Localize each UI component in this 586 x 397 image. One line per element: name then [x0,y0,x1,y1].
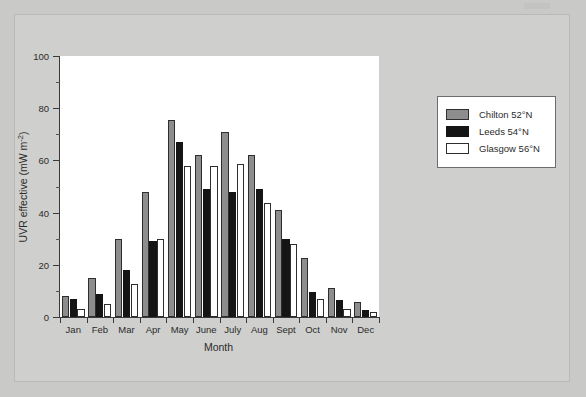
bar-may-glasgow [184,166,191,317]
x-axis-tick-label: Mar [118,325,134,335]
x-axis-tick [166,317,167,323]
bar-mar-chilton [115,239,122,317]
plot-area: 020406080100JanFebMarAprMayJuneJulyAugSe… [59,56,379,318]
bar-nov-chilton [328,288,335,317]
bar-july-chilton [221,132,228,317]
y-axis-tick: 40 [53,213,60,214]
x-axis-tick-label: Nov [331,325,348,335]
x-axis-tick [379,317,380,323]
bar-oct-glasgow [317,299,324,317]
legend-swatch-leeds [446,126,469,137]
y-axis-tick-label: 60 [38,157,49,167]
legend-label: Leeds 54°N [479,126,529,137]
legend-label: Chilton 52°N [479,109,532,120]
bar-nov-leeds [336,300,343,317]
legend-item: Glasgow 56°N [446,143,548,154]
bar-aug-leeds [256,189,263,317]
y-axis-tick: 100 [53,56,60,57]
x-axis-tick [140,317,141,323]
bar-sept-leeds [282,239,289,317]
x-axis-tick-label: Sept [276,325,296,335]
x-axis-tick [273,317,274,323]
y-axis-tick: 0 [53,317,60,318]
y-axis-tick-label: 40 [38,209,49,219]
x-axis-tick [220,317,221,323]
bar-sept-glasgow [290,244,297,317]
x-axis-tick-label: May [171,325,189,335]
bar-apr-glasgow [157,239,164,317]
bar-jan-leeds [70,299,77,317]
legend-item: Leeds 54°N [446,126,548,137]
x-axis-tick-label: Dec [357,325,374,335]
y-axis-tick-label: 0 [44,313,49,323]
bar-july-leeds [229,192,236,317]
y-axis-minor-tick [56,82,60,83]
x-axis-tick [246,317,247,323]
bar-may-leeds [176,142,183,317]
x-axis-tick [299,317,300,323]
x-axis-tick-label: Aug [251,325,268,335]
y-axis-minor-tick [56,187,60,188]
y-axis-minor-tick [56,239,60,240]
x-axis-tick [87,317,88,323]
x-axis-tick-label: June [196,325,217,335]
bar-june-chilton [195,155,202,317]
bar-jan-chilton [62,296,69,317]
y-axis-tick: 60 [53,160,60,161]
bar-dec-glasgow [370,312,377,317]
legend-item: Chilton 52°N [446,109,548,120]
x-axis-tick-label: Feb [92,325,108,335]
bar-dec-chilton [354,302,361,317]
figure-container: UVR effective (mW m-2) 020406080100JanFe… [0,0,586,397]
x-axis-tick [326,317,327,323]
y-axis-tick-label: 100 [33,52,49,62]
bar-nov-glasgow [343,309,350,317]
bar-feb-leeds [96,294,103,317]
bar-mar-leeds [123,270,130,317]
bar-apr-leeds [149,241,156,317]
x-axis-tick [352,317,353,323]
x-axis-tick [193,317,194,323]
legend-swatch-glasgow [446,143,469,154]
bar-mar-glasgow [131,284,138,317]
bar-oct-leeds [309,292,316,317]
legend-swatch-chilton [446,109,469,120]
bar-july-glasgow [237,164,244,317]
bar-dec-leeds [362,310,369,317]
x-axis-tick-label: July [224,325,241,335]
bar-apr-chilton [142,192,149,317]
y-axis-tick: 80 [53,108,60,109]
x-axis-tick [113,317,114,323]
y-axis-tick-label: 80 [38,104,49,114]
y-axis-minor-tick [56,134,60,135]
bar-feb-chilton [88,278,95,317]
y-axis-title-exponent: -2 [16,135,25,142]
x-axis-title: Month [59,341,378,353]
scan-artifact [524,3,550,9]
x-axis-tick-label: Oct [305,325,320,335]
bar-jan-glasgow [77,309,84,317]
bar-may-chilton [168,120,175,317]
y-axis-tick: 20 [53,265,60,266]
x-axis-tick-label: Apr [146,325,161,335]
bar-aug-glasgow [264,203,271,317]
y-axis-title-main: UVR effective (mW m [17,141,29,242]
legend-label: Glasgow 56°N [479,143,540,154]
y-axis-tick-label: 20 [38,261,49,271]
bar-oct-chilton [301,258,308,317]
bar-june-glasgow [210,166,217,317]
x-axis-tick [60,317,61,323]
y-axis-title-tail: ) [17,131,29,135]
x-axis-tick-label: Jan [66,325,81,335]
bar-sept-chilton [275,210,282,317]
bar-feb-glasgow [104,304,111,317]
y-axis-title: UVR effective (mW m-2) [16,56,30,317]
chart-legend: Chilton 52°NLeeds 54°NGlasgow 56°N [437,96,556,168]
bar-june-leeds [203,189,210,317]
y-axis-minor-tick [56,291,60,292]
bar-aug-chilton [248,155,255,317]
